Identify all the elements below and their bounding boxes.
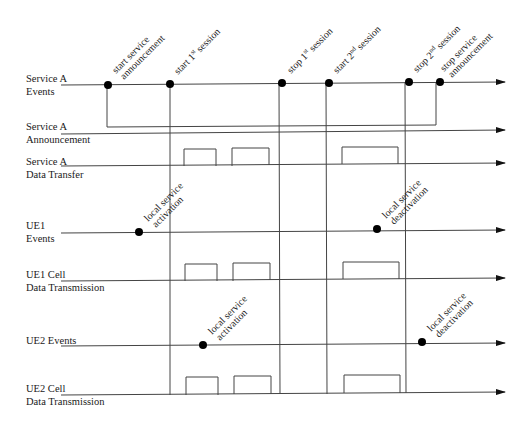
timeline-announcement: [61, 130, 505, 134]
ue2-event-labels: local service activation local service d…: [206, 290, 475, 343]
dot-ue2-deactivation: [418, 338, 426, 346]
announcement-period: [107, 82, 436, 127]
timeline-data-transfer: [61, 163, 505, 166]
data-block-2: [232, 148, 269, 166]
lane-labels: Service A Events Service A Announcement …: [26, 73, 105, 407]
ue1-data-block-3: [343, 262, 399, 279]
lane-label-data-transfer-2: Data Transfer: [26, 169, 84, 180]
ue1-data-block-2: [233, 263, 270, 281]
service-event-labels: start service announcement start 1st ses…: [110, 22, 495, 81]
timeline-ue2-events: [61, 343, 505, 346]
timing-diagram: Service A Events Service A Announcement …: [0, 0, 529, 422]
dot-stop-2nd-session: [405, 78, 413, 86]
dot-stop-1st-session: [278, 79, 286, 87]
dot-start-1st-session: [166, 80, 174, 88]
dot-ue1-activation: [135, 228, 143, 236]
lane-label-announcement-2: Announcement: [26, 134, 90, 145]
lane-label-data-transfer-1: Service A: [26, 156, 68, 167]
lane-label-service-a-events-2: Events: [26, 86, 55, 97]
label-start-2nd-session: start 2nd session: [330, 23, 383, 76]
lane-label-ue2-cell-2: Data Transmission: [26, 396, 105, 407]
dot-ue1-deactivation: [373, 225, 381, 233]
ue1-data-block-1: [185, 264, 217, 281]
dot-ue2-activation: [199, 341, 207, 349]
dot-start-service-announcement: [104, 81, 112, 89]
lane-label-ue2-events: UE2 Events: [26, 335, 76, 346]
ue2-data-block-1: [186, 377, 218, 395]
lane-label-ue1-events-1: UE1: [26, 220, 45, 231]
label-start-1st-session: start 1st session: [171, 25, 222, 76]
lane-label-service-a-events-1: Service A: [26, 73, 68, 84]
vline-stop-2nd-session: [405, 82, 406, 393]
ue2-data-block-3: [344, 375, 400, 393]
timeline-ue2-cell: [61, 392, 505, 395]
label-stop-1st-session: stop 1st session: [284, 25, 335, 76]
vline-stop-1st-session: [279, 84, 280, 394]
ue2-data-block-2: [234, 376, 271, 394]
data-block-1: [184, 149, 216, 166]
vline-start-2nd-session: [326, 83, 327, 394]
timeline-ue1-cell: [61, 278, 505, 281]
timeline-ue1-events: [61, 230, 505, 233]
dot-start-2nd-session: [325, 79, 333, 87]
lane-label-ue2-cell-1: UE2 Cell: [26, 383, 65, 394]
dot-stop-service-announcement: [436, 78, 444, 86]
lane-label-ue1-cell-2: Data Transmission: [26, 282, 105, 293]
lane-label-announcement-1: Service A: [26, 121, 68, 132]
lane-label-ue1-events-2: Events: [26, 233, 55, 244]
ue1-event-labels: local service activation local service d…: [142, 177, 430, 230]
data-block-3: [342, 147, 398, 164]
lane-label-ue1-cell-1: UE1 Cell: [26, 269, 65, 280]
